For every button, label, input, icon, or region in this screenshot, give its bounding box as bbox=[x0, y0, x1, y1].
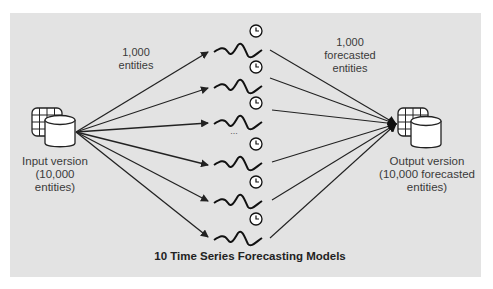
output-annotation-count: 1,000 bbox=[310, 36, 390, 49]
output-arrows bbox=[270, 50, 396, 238]
input-annotation-unit: entities bbox=[106, 59, 166, 72]
output-version-label: Output version (10,000 forecasted entiti… bbox=[372, 155, 482, 194]
diagram-title: 10 Time Series Forecasting Models bbox=[140, 250, 360, 262]
flow-diagram bbox=[0, 0, 493, 289]
input-version-label: Input version (10,000 entities) bbox=[12, 155, 98, 194]
input-arrows bbox=[76, 52, 208, 237]
time-series-clock-icon bbox=[214, 176, 262, 208]
input-annotation-count: 1,000 bbox=[106, 46, 166, 59]
time-series-clock-icon bbox=[214, 138, 262, 170]
output-annotation-type: forecasted bbox=[310, 49, 390, 62]
output-annotation: 1,000 forecasted entities bbox=[310, 36, 390, 75]
input-database-icon bbox=[32, 108, 75, 147]
output-database-icon bbox=[398, 108, 441, 148]
time-series-clock-icon bbox=[214, 61, 262, 93]
ellipsis: ... bbox=[222, 125, 246, 138]
time-series-clock-icon bbox=[214, 213, 262, 245]
input-annotation: 1,000 entities bbox=[106, 46, 166, 72]
time-series-clock-icon bbox=[214, 25, 262, 57]
output-annotation-unit: entities bbox=[310, 62, 390, 75]
